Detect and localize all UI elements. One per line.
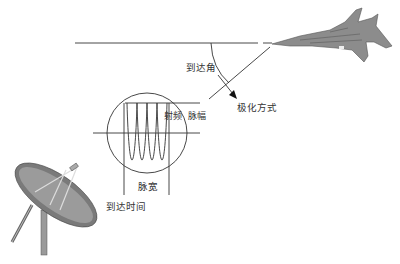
pulse-width-label: 脉宽: [138, 182, 158, 192]
arrival-angle-label: 到达角: [186, 63, 216, 73]
arrival-time-label: 到达时间: [106, 202, 146, 212]
pulse-amplitude-label: 脉幅: [188, 112, 206, 121]
radio-frequency-label: 射频: [164, 112, 182, 121]
polarization-label: 极化方式: [237, 103, 277, 113]
radar-signal-parameters-diagram: 到达角 极化方式 射频 脉幅 脉宽 到达时间: [0, 0, 400, 264]
